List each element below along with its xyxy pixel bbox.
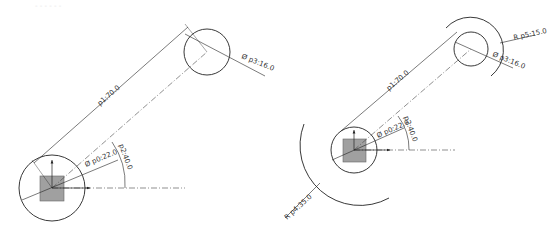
arc-p4[interactable] [300, 124, 389, 205]
label-p3[interactable]: Ø p3:16.0 [240, 52, 275, 72]
label-p2[interactable]: p2:40.0 [402, 115, 419, 143]
label-p2[interactable]: p2:40.0 [117, 143, 134, 171]
sketch-canvas: - - - - - - p1:70.0 Ø p0:22.0 Ø p3:16.0 … [0, 0, 551, 237]
label-p4[interactable]: R p4:35.0 [283, 193, 314, 222]
header-faint-text: - - - - - - [35, 2, 62, 10]
label-p0[interactable]: Ø p0:22.0 [84, 148, 119, 169]
left-sketch: p1:70.0 Ø p0:22.0 Ø p3:16.0 p2:40.0 [19, 24, 275, 221]
label-p5[interactable]: R p5:15.0 [513, 27, 548, 42]
label-p1[interactable]: p1:70.0 [96, 84, 122, 108]
right-sketch: p1:70.0 Ø p0:22.0 p2:40.0 Ø p3:16.0 R p5… [283, 17, 548, 221]
dim-line-p3 [185, 34, 265, 76]
label-p1[interactable]: p1:70.0 [385, 69, 411, 93]
